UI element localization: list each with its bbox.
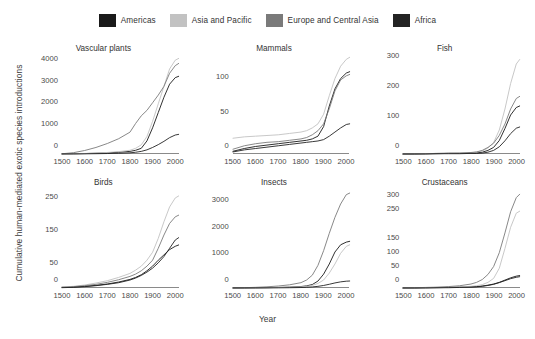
x-tick-label: 2000 — [167, 291, 184, 300]
subplot-insects: Insects010002000300015001600170018001900… — [189, 178, 360, 312]
series-line — [62, 238, 179, 288]
x-tick-label: 2000 — [508, 157, 525, 166]
subplot-title: Crustaceans — [359, 178, 530, 187]
legend-label: Asia and Pacific — [192, 16, 252, 25]
y-tick-label: 3000 — [212, 195, 229, 204]
series-canvas — [233, 58, 350, 154]
x-tick-label: 1900 — [144, 291, 161, 300]
series-line — [62, 58, 179, 153]
legend-item[interactable]: Asia and Pacific — [170, 14, 252, 27]
x-tick-label: 2000 — [337, 291, 354, 300]
subplot-mammals: Mammals050100150016001700180019002000 — [189, 44, 360, 178]
x-tick-label: 1600 — [418, 291, 435, 300]
series-line — [233, 245, 350, 288]
series-line — [62, 63, 179, 153]
x-tick-label: 1900 — [485, 291, 502, 300]
y-tick-label: 300 — [387, 51, 400, 60]
legend-label: Americas — [121, 16, 156, 25]
plot-area: 050150250150016001700180019002000 — [62, 192, 179, 288]
legend-color-swatch — [393, 14, 410, 27]
series-canvas — [403, 58, 520, 154]
y-tick-label: 3000 — [41, 75, 58, 84]
x-tick-label: 1800 — [463, 291, 480, 300]
x-tick-label: 2000 — [508, 291, 525, 300]
series-line — [62, 76, 179, 154]
legend-item[interactable]: Africa — [393, 14, 437, 27]
x-tick-label: 1500 — [395, 157, 412, 166]
y-tick-label: 0 — [54, 275, 58, 284]
series-line — [233, 72, 350, 152]
x-tick-label: 1900 — [485, 157, 502, 166]
x-tick-label: 1500 — [224, 157, 241, 166]
subplot-vascular-plants: Vascular plants0100020003000400015001600… — [18, 44, 189, 178]
y-tick-label: 100 — [387, 246, 400, 255]
subplot-fish: Fish0100200300150016001700180019002000 — [359, 44, 530, 178]
y-tick-label: 1000 — [212, 248, 229, 257]
x-axis-label: Year — [0, 314, 535, 324]
subplot-title: Insects — [189, 178, 360, 187]
y-tick-label: 1000 — [41, 119, 58, 128]
legend-item[interactable]: Europe and Central Asia — [266, 14, 379, 27]
legend-color-swatch — [266, 14, 283, 27]
x-tick-label: 1500 — [395, 291, 412, 300]
subplot-title: Vascular plants — [18, 44, 189, 53]
x-tick-label: 1600 — [418, 157, 435, 166]
x-tick-label: 1700 — [99, 157, 116, 166]
x-tick-label: 2000 — [167, 157, 184, 166]
y-tick-label: 150 — [45, 225, 58, 234]
plot-area: 050100150250300150016001700180019002000 — [403, 192, 520, 288]
y-tick-label: 0 — [54, 141, 58, 150]
y-tick-label: 50 — [391, 260, 399, 269]
subplot-title: Mammals — [189, 44, 360, 53]
subplot-title: Birds — [18, 178, 189, 187]
x-tick-label: 1500 — [54, 157, 71, 166]
x-tick-label: 1900 — [144, 157, 161, 166]
legend-label: Europe and Central Asia — [288, 16, 379, 25]
legend-label: Africa — [415, 16, 437, 25]
x-tick-label: 1600 — [247, 157, 264, 166]
x-tick-label: 1800 — [292, 291, 309, 300]
plot-area: 0100020003000150016001700180019002000 — [233, 192, 350, 288]
y-tick-label: 0 — [224, 275, 228, 284]
y-tick-label: 50 — [220, 106, 228, 115]
x-tick-label: 1800 — [122, 291, 139, 300]
series-line — [403, 211, 520, 288]
x-tick-label: 1500 — [224, 291, 241, 300]
series-line — [403, 277, 520, 288]
x-tick-label: 1700 — [440, 157, 457, 166]
y-tick-label: 0 — [395, 275, 399, 284]
x-tick-label: 1700 — [99, 291, 116, 300]
x-tick-label: 1500 — [54, 291, 71, 300]
series-line — [403, 194, 520, 288]
legend: AmericasAsia and PacificEurope and Centr… — [0, 14, 535, 27]
plot-area: 050100150016001700180019002000 — [233, 58, 350, 154]
x-tick-label: 2000 — [337, 157, 354, 166]
y-tick-label: 250 — [45, 192, 58, 201]
y-tick-label: 50 — [50, 258, 58, 267]
series-line — [233, 193, 350, 288]
legend-color-swatch — [99, 14, 116, 27]
series-canvas — [403, 192, 520, 288]
plot-area: 0100020003000400015001600170018001900200… — [62, 58, 179, 154]
subplot-grid: Vascular plants0100020003000400015001600… — [18, 44, 530, 312]
plot-area: 0100200300150016001700180019002000 — [403, 58, 520, 154]
y-tick-label: 0 — [395, 141, 399, 150]
y-tick-label: 100 — [216, 72, 229, 81]
x-tick-label: 1800 — [463, 157, 480, 166]
x-tick-label: 1600 — [247, 291, 264, 300]
legend-color-swatch — [170, 14, 187, 27]
y-tick-label: 300 — [387, 190, 400, 199]
series-canvas — [62, 58, 179, 154]
y-tick-label: 2000 — [41, 97, 58, 106]
subplot-crustaceans: Crustaceans05010015025030015001600170018… — [359, 178, 530, 312]
y-tick-label: 150 — [387, 232, 400, 241]
x-tick-label: 1700 — [270, 291, 287, 300]
x-tick-label: 1700 — [440, 291, 457, 300]
legend-item[interactable]: Americas — [99, 14, 156, 27]
y-tick-label: 250 — [387, 204, 400, 213]
x-tick-label: 1900 — [315, 157, 332, 166]
y-tick-label: 0 — [224, 141, 228, 150]
series-canvas — [233, 192, 350, 288]
x-tick-label: 1900 — [315, 291, 332, 300]
x-tick-label: 1700 — [270, 157, 287, 166]
